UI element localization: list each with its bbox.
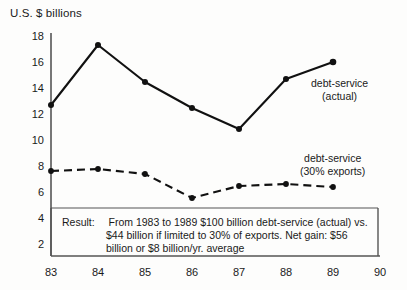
result-annotation-text1: From 1983 to 1989 $100 billion debt-serv… xyxy=(109,216,368,228)
series-line-debt-service-exports xyxy=(51,169,333,198)
series-label-actual-line2: (actual) xyxy=(311,90,368,103)
result-annotation-line3: billion or $8 billion/yr. average xyxy=(62,242,374,255)
result-annotation: Result: From 1983 to 1989 $100 billion d… xyxy=(62,216,374,254)
series-label-debt-service-exports: debt-service (30% exports) xyxy=(300,152,365,177)
series-label-exports-line1: debt-service xyxy=(300,152,365,165)
chart-container: U.S. $ billions 18 16 14 12 10 8 6 4 2 8… xyxy=(0,0,407,290)
result-annotation-label: Result: xyxy=(62,216,95,228)
series-line-debt-service-actual xyxy=(51,45,333,129)
series-markers-debt-service-actual xyxy=(48,42,336,132)
result-annotation-line1: Result: From 1983 to 1989 $100 billion d… xyxy=(62,216,374,229)
result-annotation-line2: $44 billion if limited to 30% of exports… xyxy=(62,229,374,242)
series-label-exports-line2: (30% exports) xyxy=(300,165,365,178)
series-label-actual-line1: debt-service xyxy=(311,77,368,90)
series-label-debt-service-actual: debt-service (actual) xyxy=(311,77,368,102)
